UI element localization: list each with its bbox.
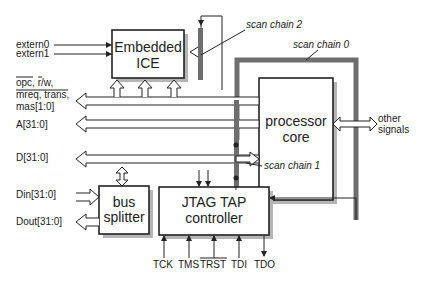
dout-label: Dout[31:0]	[16, 216, 62, 227]
ice-scan2-connector	[190, 47, 198, 57]
ctrl-label-1: opc, r/w,	[16, 77, 53, 88]
scan-chain-2-arrowhead	[198, 20, 204, 26]
ctrl-label-3: mas[1:0]	[16, 101, 55, 112]
ice-input-1	[110, 80, 124, 97]
data-label: D[31:0]	[16, 152, 48, 163]
pin-tdo: TDO	[254, 259, 275, 270]
extern1-label: extern1	[16, 48, 50, 59]
scan-chain-1-label: scan chain 1	[264, 160, 320, 171]
scan-node-1	[234, 143, 239, 148]
dout-arrow	[76, 214, 99, 230]
address-bus	[76, 116, 259, 132]
scan-chain-1-arrow	[236, 152, 259, 166]
din-label: Din[31:0]	[16, 189, 56, 200]
scan-chain-0-label: scan chain 0	[293, 39, 350, 50]
processor-core-label-2: core	[282, 129, 309, 145]
other-signals-label-1: other	[378, 113, 401, 124]
splitter-data-connector	[116, 167, 128, 186]
embedded-ice-label-2: ICE	[136, 55, 159, 71]
bus-splitter-label-2: splitter	[103, 209, 145, 225]
other-signals-label-2: signals	[378, 124, 409, 135]
din-arrow	[76, 189, 99, 205]
scan-chain-2-label: scan chain 2	[246, 19, 303, 30]
ice-input-3	[167, 80, 181, 97]
arm-debug-architecture-diagram: Embedded ICE extern0 extern1 scan chain …	[0, 0, 426, 281]
scan-chain-2-leader	[201, 30, 245, 55]
address-label: A[31:0]	[16, 119, 48, 130]
pin-tck: TCK	[153, 259, 173, 270]
data-bus	[76, 151, 259, 167]
pin-tdi: TDI	[231, 259, 247, 270]
jtag-label-1: JTAG TAP	[182, 194, 247, 210]
processor-core-label-1: processor	[265, 113, 327, 129]
bus-splitter-label-1: bus	[113, 194, 136, 210]
scan-node-2	[234, 176, 239, 181]
embedded-ice-label-1: Embedded	[114, 39, 182, 55]
control-bus	[76, 93, 259, 109]
jtag-label-2: controller	[185, 210, 243, 226]
ice-input-2	[138, 80, 152, 97]
pin-trst: TRST	[200, 259, 226, 270]
pin-tms: TMS	[178, 259, 199, 270]
ctrl-label-2: mreq, trans,	[16, 89, 69, 100]
